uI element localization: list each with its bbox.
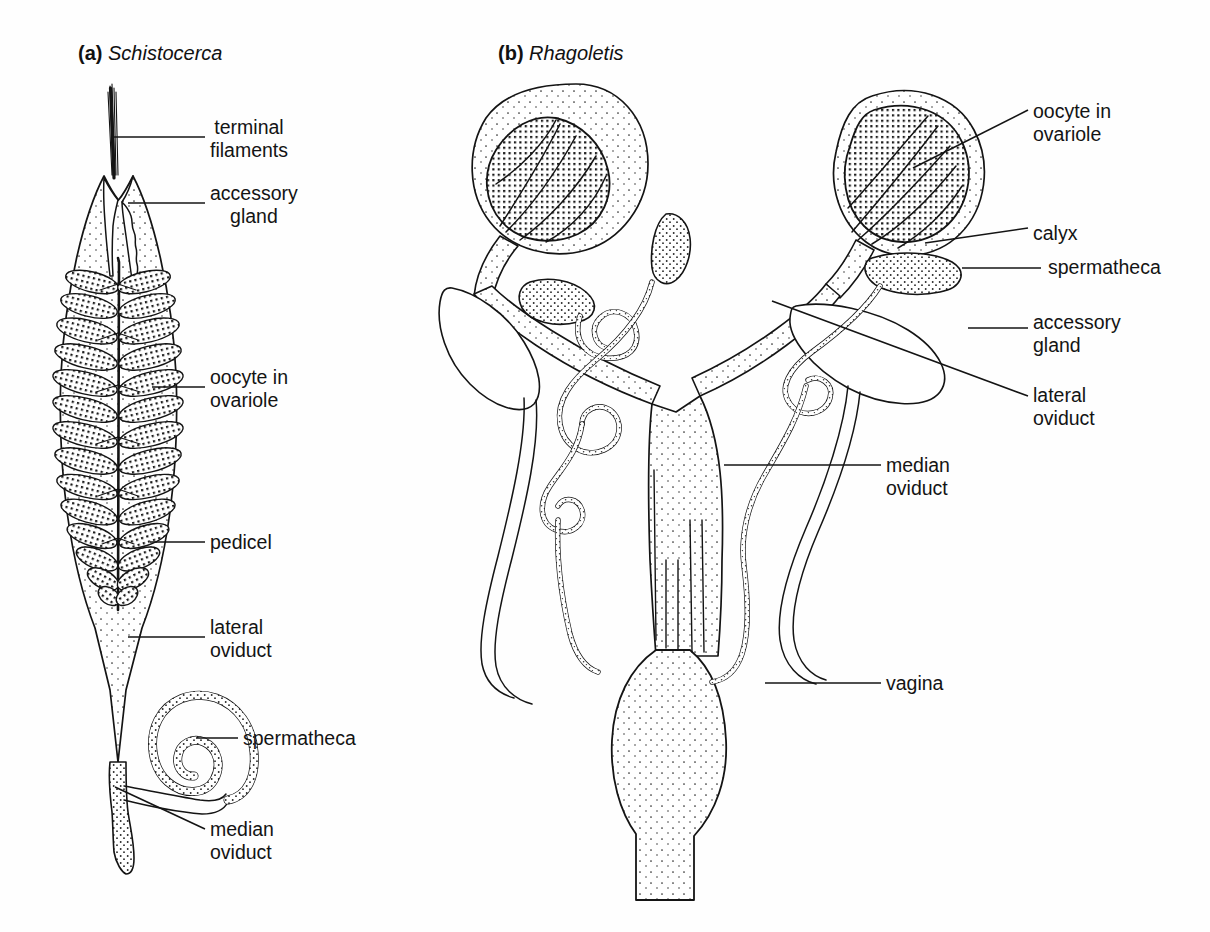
figure-canvas: (a) Schistocerca(b) Rhagoletis terminal … — [0, 0, 1210, 932]
label-a-median-oviduct: median oviduct — [210, 818, 274, 864]
panel-title-a: (a) Schistocerca — [78, 42, 223, 65]
label-a-terminal-filaments: terminal filaments — [210, 116, 288, 162]
label-b-vagina: vagina — [886, 672, 943, 695]
spermatheca-a — [153, 695, 255, 800]
panel-species-b: Rhagoletis — [529, 42, 624, 64]
panel-marker-a: (a) — [78, 42, 108, 64]
median-oviduct-a — [109, 762, 134, 874]
spermatheca-b-left — [519, 279, 594, 324]
label-b-accessory-gland: accessory gland — [1033, 311, 1121, 357]
label-a-lateral-oviduct: lateral oviduct — [210, 616, 272, 662]
label-a-spermatheca: spermatheca — [243, 727, 356, 750]
label-b-spermatheca: spermatheca — [1048, 256, 1161, 279]
spermatheca-b-center — [652, 214, 691, 284]
label-a-accessory-gland: accessory gland — [210, 182, 298, 228]
vagina-b — [612, 650, 726, 900]
panel-species-a: Schistocerca — [108, 42, 223, 64]
diagram-svg — [0, 0, 1210, 932]
label-b-median-oviduct: median oviduct — [886, 454, 950, 500]
panel-marker-b: (b) — [498, 42, 529, 64]
label-b-lateral-oviduct: lateral oviduct — [1033, 384, 1095, 430]
label-b-oocyte-in-ovariole: oocyte in ovariole — [1033, 100, 1111, 146]
panel-title-b: (b) Rhagoletis — [498, 42, 624, 65]
label-a-pedicel: pedicel — [210, 531, 272, 554]
label-b-calyx: calyx — [1033, 222, 1077, 245]
median-oviduct-b — [649, 396, 723, 656]
label-a-oocyte-in-ovariole: oocyte in ovariole — [210, 366, 288, 412]
